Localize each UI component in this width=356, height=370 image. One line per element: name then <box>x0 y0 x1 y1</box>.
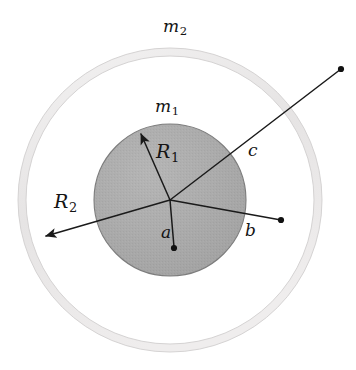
label-R2-base: R <box>54 190 68 212</box>
label-m2-subscript: 2 <box>179 24 187 38</box>
physics-diagram-figure: m2 m1 R1 R2 c b a <box>0 0 356 370</box>
field-point-b-dot <box>278 217 284 223</box>
label-a: a <box>161 224 171 241</box>
label-m2-base: m <box>163 16 179 36</box>
label-b: b <box>245 222 256 239</box>
label-m1-base: m <box>155 96 171 116</box>
label-c: c <box>248 142 258 159</box>
diagram-canvas <box>0 0 356 370</box>
label-m1-subscript: 1 <box>171 104 179 118</box>
field-point-a-dot <box>171 245 177 251</box>
label-R1-base: R <box>156 140 170 162</box>
label-R1-subscript: 1 <box>170 150 179 165</box>
label-m2: m2 <box>163 18 187 38</box>
label-R2: R2 <box>54 192 77 215</box>
label-R2-subscript: 2 <box>68 200 77 215</box>
label-R1: R1 <box>156 142 179 165</box>
field-point-c-dot <box>338 66 344 72</box>
label-m1: m1 <box>155 98 179 118</box>
